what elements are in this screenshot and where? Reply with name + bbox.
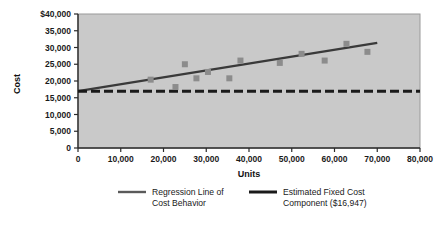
chart-svg: $40,00035,00030,00025,00020,00015,00010,…: [0, 0, 446, 225]
data-point-marker: [237, 58, 243, 64]
x-axis-tick-label: 60,000: [322, 154, 348, 164]
data-point-marker: [182, 61, 188, 67]
y-axis-tick-label: 15,000: [45, 93, 71, 103]
plot-background: [78, 14, 420, 148]
y-axis-tick-label: $40,000: [40, 9, 71, 19]
legend-item-regression-line-1: Regression Line of: [152, 187, 224, 197]
y-axis-tick-label: 30,000: [45, 43, 71, 53]
x-axis-tick-label: 50,000: [279, 154, 305, 164]
legend-item-fixed-cost-line-2: Component ($16,947): [283, 198, 367, 208]
y-axis-tick-label: 5,000: [50, 126, 72, 136]
x-axis-tick-label: 70,000: [364, 154, 390, 164]
data-point-marker: [322, 58, 328, 64]
x-axis-tick-label: 80,000: [407, 154, 433, 164]
x-axis-title: Units: [238, 169, 261, 179]
x-axis-tick-label: 10,000: [108, 154, 134, 164]
data-point-marker: [193, 75, 199, 81]
y-axis-tick-label: 10,000: [45, 110, 71, 120]
data-point-marker: [364, 49, 370, 55]
data-point-marker: [226, 75, 232, 81]
y-axis-tick-label: 25,000: [45, 59, 71, 69]
y-axis-tick-label: 0: [66, 143, 71, 153]
y-axis-title: Cost: [12, 74, 22, 94]
x-axis-tick-label: 30,000: [193, 154, 219, 164]
chart-legend: Regression Line of Cost Behavior Estimat…: [118, 187, 367, 208]
y-axis-tick-label: 35,000: [45, 26, 71, 36]
y-axis-ticks: $40,00035,00030,00025,00020,00015,00010,…: [40, 9, 78, 153]
cost-behavior-chart: $40,00035,00030,00025,00020,00015,00010,…: [0, 0, 446, 225]
legend-item-fixed-cost-line-1: Estimated Fixed Cost: [283, 187, 365, 197]
x-axis-tick-label: 0: [76, 154, 81, 164]
data-point-marker: [277, 60, 283, 66]
x-axis-tick-label: 40,000: [236, 154, 262, 164]
data-point-marker: [205, 69, 211, 75]
x-axis-tick-label: 20,000: [151, 154, 177, 164]
legend-item-regression-line-2: Cost Behavior: [152, 198, 206, 208]
data-point-marker: [148, 77, 154, 83]
data-point-marker: [343, 41, 349, 47]
data-point-marker: [172, 84, 178, 90]
x-axis-ticks: 010,00020,00030,00040,00050,00060,00070,…: [76, 148, 434, 164]
data-point-marker: [299, 51, 305, 57]
y-axis-tick-label: 20,000: [45, 76, 71, 86]
